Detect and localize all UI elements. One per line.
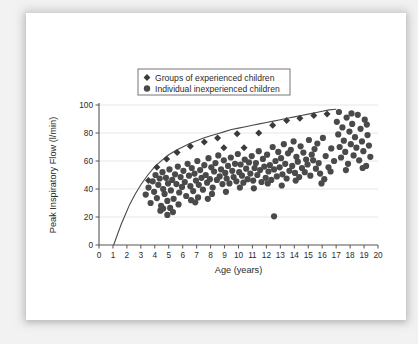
x-axis-tick-label: 8 [208,250,213,260]
data-point-diamond [174,149,181,156]
data-point-circle [367,154,373,160]
data-point-circle [348,110,354,116]
data-point-diamond [324,111,331,118]
x-axis-tick-label: 13 [276,250,286,260]
data-point-circle [143,192,149,198]
data-point-circle [175,164,181,170]
x-axis-tick-label: 20 [373,250,383,260]
data-point-circle [310,157,316,163]
x-axis-tick-label: 2 [125,250,130,260]
data-point-circle [270,144,276,150]
data-point-circle [249,153,255,159]
data-point-circle [344,115,350,121]
data-point-circle [223,189,229,195]
data-point-circle [346,129,352,135]
data-point-circle [352,134,358,140]
data-point-circle [284,175,290,181]
data-point-circle [302,169,308,175]
data-point-circle [189,165,195,171]
x-axis-tick-label: 1 [111,250,116,260]
data-point-circle [311,146,317,152]
x-axis-tick-label: 0 [97,250,102,260]
data-point-diamond [220,144,227,151]
data-point-circle [338,154,344,160]
data-point-circle [207,176,213,182]
data-point-circle [282,161,288,167]
data-point-circle [210,185,216,191]
data-point-circle [155,182,161,188]
data-point-circle [317,171,323,177]
data-point-circle [337,144,343,150]
data-point-circle [341,138,347,144]
data-point-circle [253,160,259,166]
x-axis-tick-label: 11 [248,250,257,260]
data-point-circle [180,168,186,174]
data-point-circle [186,173,192,179]
y-axis-title: Peak Inspiratory Flow (l/min) [48,117,58,233]
data-point-circle [243,166,249,172]
data-point-circle [300,150,306,156]
data-point-circle [309,152,315,158]
x-axis-tick-label: 9 [222,250,227,260]
data-point-circle [271,213,277,219]
data-point-circle [196,182,202,188]
data-point-circle [176,189,182,195]
data-point-circle [151,189,157,195]
data-point-circle [335,131,341,137]
legend-item-label: Individual inexperienced children [155,84,280,94]
screenshot-root: 0204060801000123456789101112131415161718… [0,0,418,344]
data-point-circle [205,155,211,161]
data-point-circle [331,158,337,164]
data-point-circle [316,160,322,166]
data-point-diamond [234,130,241,137]
data-point-circle [364,122,370,128]
y-axis-tick-label: 80 [84,128,94,138]
data-point-circle [314,140,320,146]
data-point-circle [291,138,297,144]
x-axis-title: Age (years) [215,265,263,275]
data-point-circle [163,175,169,181]
data-point-circle [215,152,221,158]
data-point-circle [154,195,160,201]
data-point-circle [360,165,366,171]
data-point-circle [191,171,197,177]
data-point-circle [323,153,329,159]
data-point-circle [164,198,170,204]
data-point-circle [190,188,196,194]
data-point-circle [175,201,181,207]
data-point-circle [336,109,342,115]
y-axis-tick-label: 0 [88,240,93,250]
figure-card: 0204060801000123456789101112131415161718… [26,13,406,320]
x-axis-tick-label: 4 [152,250,157,260]
y-axis-tick-label: 20 [84,212,94,222]
data-point-circle [297,143,303,149]
data-point-circle [293,178,299,184]
x-axis-tick-label: 17 [332,250,342,260]
data-point-circle [228,154,234,160]
data-point-circle [226,180,232,186]
data-point-diamond [241,144,248,151]
data-point-circle [271,166,277,172]
chart-figure: 0204060801000123456789101112131415161718… [26,13,406,320]
data-point-diamond [214,134,221,141]
data-point-circle [173,181,179,187]
data-point-circle [237,185,243,191]
data-point-circle [348,141,354,147]
data-point-circle [222,170,228,176]
x-axis-tick-label: 14 [290,250,300,260]
data-point-circle [261,164,267,170]
data-point-circle [247,171,253,177]
x-axis-tick-label: 18 [345,250,355,260]
y-axis-tick-label: 100 [79,100,93,110]
x-axis-tick-label: 7 [194,250,199,260]
data-point-circle [251,185,257,191]
data-point-circle [178,174,184,180]
data-point-circle [275,149,281,155]
data-point-circle [328,145,334,151]
data-point-circle [304,161,310,167]
data-point-circle [320,135,326,141]
data-point-circle [250,178,256,184]
data-point-circle [164,212,170,218]
data-point-circle [237,161,243,167]
data-point-circle [339,124,345,130]
